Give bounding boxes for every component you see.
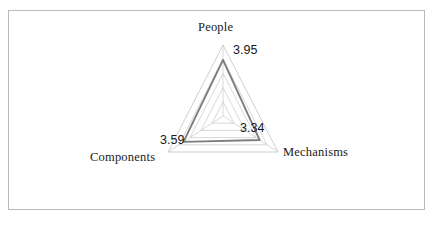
data-value-components: 3.59 xyxy=(160,133,184,147)
axis-label-components: Components xyxy=(90,150,155,165)
radar-chart-figure: People Mechanisms Components 3.95 3.34 3… xyxy=(0,0,441,225)
axis-label-people: People xyxy=(198,20,233,35)
axis-label-mechanisms: Mechanisms xyxy=(283,145,348,160)
data-value-mechanisms: 3.34 xyxy=(240,121,264,135)
data-value-people: 3.95 xyxy=(233,43,257,57)
